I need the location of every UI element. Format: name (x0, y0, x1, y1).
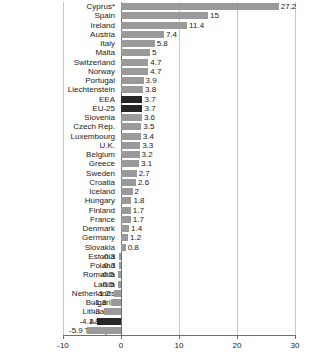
x-tick-label: 20 (222, 341, 252, 351)
bar-row: France1.7 (0, 215, 312, 224)
category-label: Spain (0, 11, 118, 20)
bar (119, 253, 121, 260)
bar-row: Latvia-0.5 (0, 280, 312, 289)
bar-value-label: 3.3 (142, 141, 153, 150)
bar (121, 244, 126, 251)
bar-row: Czech Rep.3.5 (0, 122, 312, 131)
bar-value-label: 7.4 (166, 30, 177, 39)
bar (121, 216, 131, 223)
bar (111, 299, 121, 306)
bar-row: Iceland2 (0, 187, 312, 196)
bar-value-label: -1.8 (71, 298, 109, 307)
category-label: Greece (0, 159, 118, 168)
category-label: Denmark (0, 224, 118, 233)
bar-value-label: 5 (152, 48, 156, 57)
category-label: Austria (0, 30, 118, 39)
bar-row: Sweden2.7 (0, 169, 312, 178)
bar-row: Cyprus*27.2 (0, 2, 312, 11)
bar-row: Romania-0.5 (0, 270, 312, 279)
category-label: Malta (0, 48, 118, 57)
tick-mark-30 (295, 335, 296, 339)
bar-row: Ireland11.4 (0, 21, 312, 30)
bar (121, 225, 129, 232)
category-label: Slovenia (0, 113, 118, 122)
tick-mark-10 (179, 335, 180, 339)
bar-value-label: 3.2 (142, 150, 153, 159)
bar-value-label: -0.3 (79, 252, 117, 261)
bar (114, 290, 121, 297)
bar-value-label: 3.8 (145, 85, 156, 94)
bar (121, 77, 144, 84)
bar-value-label: 1.8 (133, 196, 144, 205)
bar-value-label: 5.8 (157, 39, 168, 48)
bar (121, 3, 279, 10)
bar (121, 86, 143, 93)
bar (121, 142, 140, 149)
category-label: Iceland (0, 187, 118, 196)
bar-value-label: 27.2 (281, 2, 297, 11)
bar-row: Malta5 (0, 48, 312, 57)
x-tick-label: 0 (106, 341, 136, 351)
bar (121, 68, 148, 75)
bar (121, 12, 208, 19)
bar-row: Slovakia0.8 (0, 243, 312, 252)
category-label: Hungary (0, 196, 118, 205)
x-tick-label: -10 (48, 341, 78, 351)
category-label: Ireland (0, 21, 118, 30)
bar-value-label: 11.4 (189, 21, 204, 30)
category-label: Czech Rep. (0, 122, 118, 131)
bar-row: Finland1.7 (0, 206, 312, 215)
bar-row: Estonia-0.3 (0, 252, 312, 261)
category-label: Portugal (0, 76, 118, 85)
bar-value-label: 2 (135, 187, 139, 196)
bar-chart: Cyprus*27.2Spain15Ireland11.4Austria7.4I… (0, 0, 312, 363)
bar-row: EU-253.7 (0, 104, 312, 113)
bar-value-label: 3.7 (144, 95, 155, 104)
bar (121, 22, 187, 29)
bar-value-label: 1.7 (133, 215, 144, 224)
bar-row: Belgium3.2 (0, 150, 312, 159)
bar-row: Portugal3.9 (0, 76, 312, 85)
category-label: Switzerland (0, 58, 118, 67)
bar (97, 318, 121, 325)
category-label: Sweden (0, 169, 118, 178)
bar-row: A&C***-4.1 (0, 317, 312, 326)
bar-row: Poland-0.3 (0, 261, 312, 270)
bar (121, 151, 140, 158)
bar (121, 123, 141, 130)
bar-value-label: 3.9 (146, 76, 157, 85)
category-label: Luxembourg (0, 132, 118, 141)
bar-value-label: 4.7 (150, 67, 161, 76)
category-label: Finland (0, 206, 118, 215)
bar-value-label: 1.2 (130, 233, 141, 242)
bar-row: Lithuania-3 (0, 307, 312, 316)
category-label: EU-25 (0, 104, 118, 113)
bar-value-label: -0.3 (79, 261, 117, 270)
bar-value-label: 3.1 (141, 159, 152, 168)
bar-row: Turkey**-5.9 (0, 326, 312, 335)
bar (121, 197, 131, 204)
tick-mark-0 (121, 335, 122, 339)
bar (121, 170, 137, 177)
bar-row: Switzerland4.7 (0, 58, 312, 67)
bar-value-label: 3.5 (143, 122, 154, 131)
category-label: EEA (0, 95, 118, 104)
bar (121, 188, 133, 195)
bar-row: Slovenia3.6 (0, 113, 312, 122)
bar-row: Germany1.2 (0, 233, 312, 242)
bar (121, 31, 164, 38)
bar-value-label: 1.4 (131, 224, 142, 233)
bar-value-label: 15 (210, 11, 219, 20)
bar (121, 133, 141, 140)
category-label: Norway (0, 67, 118, 76)
bar-value-label: -5.9 (47, 326, 85, 335)
bar (121, 160, 139, 167)
bar-row: U.K.3.3 (0, 141, 312, 150)
bar-value-label: 4.7 (150, 58, 161, 67)
bar-row: Denmark1.4 (0, 224, 312, 233)
bar-row: Greece3.1 (0, 159, 312, 168)
bar-value-label: -0.5 (78, 270, 116, 279)
bar (119, 262, 121, 269)
bar-row: Norway4.7 (0, 67, 312, 76)
bar-row: EEA3.7 (0, 95, 312, 104)
